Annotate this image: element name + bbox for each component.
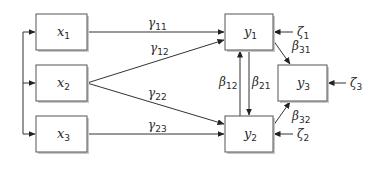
- path-beta31: [273, 40, 290, 64]
- label-zeta1: ζ1: [297, 25, 309, 41]
- node-x1: x1: [36, 14, 89, 52]
- path-beta32: [273, 102, 290, 126]
- label-gamma12: γ12: [150, 41, 169, 57]
- label-gamma23: γ23: [148, 118, 167, 134]
- node-x2: x2: [36, 65, 89, 103]
- label-beta21: β21: [251, 75, 270, 91]
- label-zeta3: ζ3: [350, 76, 362, 92]
- node-y1: y1: [225, 14, 275, 52]
- path-diagram: x1 x2 x3 y1 y2 y3 γ11 γ12 γ22 γ23 β12 β2…: [0, 0, 384, 170]
- label-gamma22: γ22: [148, 86, 167, 102]
- exogenous-correlation-bracket: [23, 32, 35, 134]
- label-beta12: β12: [218, 75, 237, 91]
- label-beta31: β31: [291, 39, 310, 55]
- path-gamma22: [87, 83, 224, 124]
- node-y2: y2: [225, 116, 275, 154]
- label-zeta2: ζ2: [297, 127, 309, 143]
- label-gamma11: γ11: [148, 16, 167, 32]
- node-x3: x3: [36, 116, 89, 154]
- label-beta32: β32: [291, 109, 310, 125]
- node-y3: y3: [278, 65, 329, 103]
